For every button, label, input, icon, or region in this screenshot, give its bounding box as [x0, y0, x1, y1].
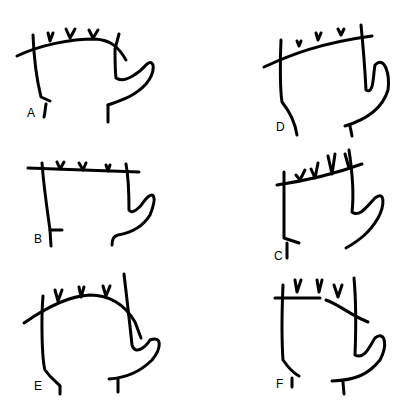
panel-label-d: D [276, 121, 285, 133]
panel-label-c: E [34, 380, 42, 392]
hand-diagram [0, 0, 407, 411]
panel-label-f: F [276, 378, 283, 390]
panel-label-e: C [274, 250, 283, 262]
panel-a [17, 29, 153, 122]
panel-label-a: A [27, 107, 35, 119]
panel-f [275, 278, 385, 394]
panel-e [277, 150, 383, 258]
panel-c [24, 274, 159, 394]
panel-label-b: B [34, 233, 42, 245]
panel-b [28, 162, 154, 246]
